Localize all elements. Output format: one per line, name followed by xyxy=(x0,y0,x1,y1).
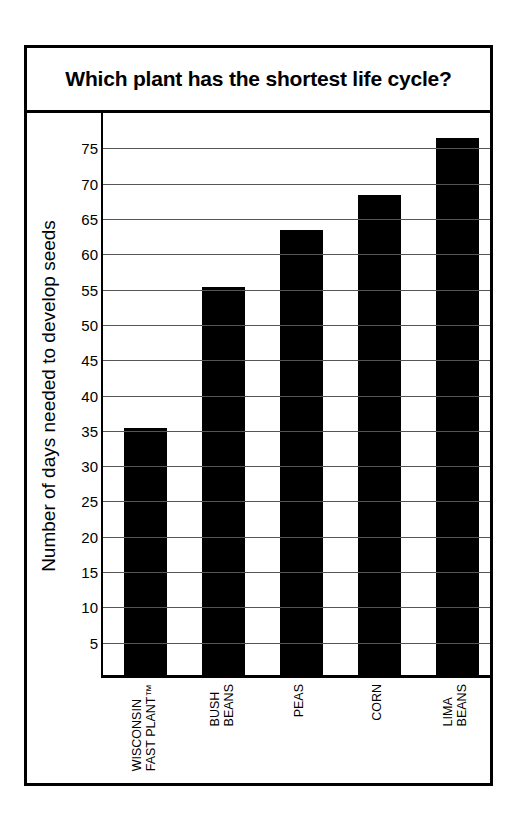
tickmark-65 xyxy=(101,219,103,220)
y-axis-tick-40: 40 xyxy=(81,387,98,404)
category-label-text-0: WISCONSINFAST PLANT™ xyxy=(130,684,158,771)
tickmark-50 xyxy=(101,325,103,326)
category-label-text-1: BUSHBEANS xyxy=(208,684,236,726)
category-label-text-3: CORN xyxy=(370,684,384,721)
bar-4 xyxy=(436,138,479,675)
tickmark-45 xyxy=(101,360,103,361)
category-label-line2-1: BEANS xyxy=(222,684,236,726)
tickmark-70 xyxy=(101,184,103,185)
tickmark-25 xyxy=(101,501,103,502)
bars-layer xyxy=(103,113,490,675)
plot-area xyxy=(101,113,490,678)
y-axis-tick-labels: 51015202530354045505560657075 xyxy=(71,113,101,678)
category-label-4: LIMABEANS xyxy=(416,678,494,788)
tickmark-60 xyxy=(101,254,103,255)
bar-1 xyxy=(202,287,245,675)
category-label-2: PEAS xyxy=(261,678,339,788)
y-axis-tick-5: 5 xyxy=(90,634,98,651)
tickmark-15 xyxy=(101,572,103,573)
y-axis-tick-60: 60 xyxy=(81,246,98,263)
category-label-line1-0: WISCONSIN xyxy=(130,699,144,771)
tickmark-40 xyxy=(101,396,103,397)
y-axis-tick-75: 75 xyxy=(81,140,98,157)
tickmark-30 xyxy=(101,466,103,467)
category-label-line1-3: CORN xyxy=(370,684,384,721)
y-axis-tick-70: 70 xyxy=(81,175,98,192)
category-label-0: WISCONSINFAST PLANT™ xyxy=(105,678,183,788)
y-axis-tick-65: 65 xyxy=(81,210,98,227)
tickmark-55 xyxy=(101,290,103,291)
category-label-line1-1: BUSH xyxy=(208,692,222,727)
category-label-line1-4: LIMA xyxy=(441,697,455,726)
tickmark-75 xyxy=(101,148,103,149)
y-axis-label-container: Number of days needed to develop seeds xyxy=(27,113,71,678)
tickmark-35 xyxy=(101,431,103,432)
category-label-1: BUSHBEANS xyxy=(183,678,261,788)
y-axis-tick-10: 10 xyxy=(81,599,98,616)
figure-frame: Which plant has the shortest life cycle?… xyxy=(24,45,493,786)
y-axis-tick-15: 15 xyxy=(81,564,98,581)
category-label-line2-0: FAST PLANT™ xyxy=(144,684,158,771)
chart-title-box: Which plant has the shortest life cycle? xyxy=(27,48,490,113)
bar-2 xyxy=(280,230,323,675)
category-label-text-2: PEAS xyxy=(292,684,306,717)
chart-body: Number of days needed to develop seeds 5… xyxy=(27,113,490,783)
y-axis-tick-45: 45 xyxy=(81,352,98,369)
x-axis-category-labels: WISCONSINFAST PLANT™BUSHBEANSPEASCORNLIM… xyxy=(101,678,490,788)
chart-title: Which plant has the shortest life cycle? xyxy=(65,67,451,91)
y-axis-tick-50: 50 xyxy=(81,316,98,333)
category-label-line1-2: PEAS xyxy=(292,684,306,717)
bar-3 xyxy=(358,195,401,675)
bar-0 xyxy=(124,428,167,675)
y-axis-label: Number of days needed to develop seeds xyxy=(38,220,60,572)
y-axis-tick-20: 20 xyxy=(81,528,98,545)
category-label-text-4: LIMABEANS xyxy=(441,684,469,726)
tickmark-20 xyxy=(101,537,103,538)
chart-page: Which plant has the shortest life cycle?… xyxy=(0,0,517,816)
y-axis-tick-35: 35 xyxy=(81,422,98,439)
y-axis-tick-25: 25 xyxy=(81,493,98,510)
y-axis-tick-55: 55 xyxy=(81,281,98,298)
tickmark-10 xyxy=(101,607,103,608)
category-label-line2-4: BEANS xyxy=(455,684,469,726)
tickmark-5 xyxy=(101,643,103,644)
category-label-3: CORN xyxy=(338,678,416,788)
y-axis-tick-30: 30 xyxy=(81,458,98,475)
